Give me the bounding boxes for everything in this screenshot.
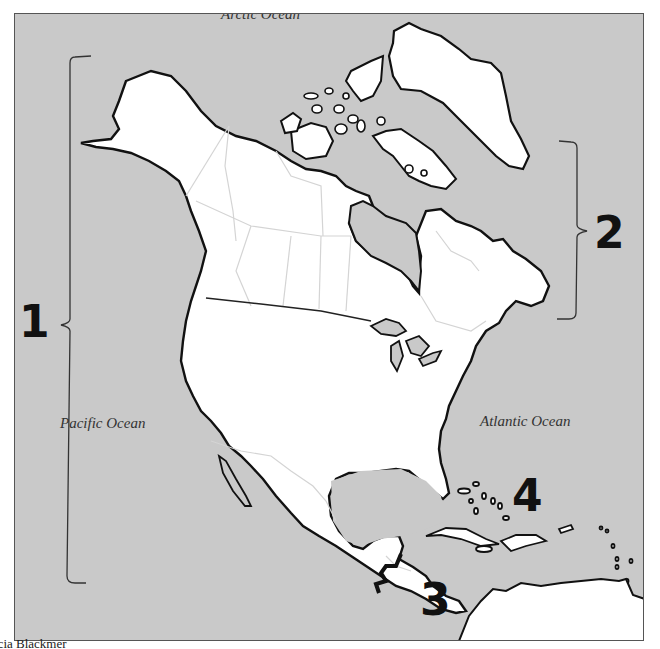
region-label-3: 3 [420, 578, 451, 622]
north-america-map [15, 14, 644, 641]
ellesmere-island [346, 56, 383, 101]
atlantic-ocean-label: Atlantic Ocean [480, 413, 570, 430]
region-label-4: 4 [512, 474, 543, 518]
pacific-ocean-label: Pacific Ocean [60, 415, 145, 432]
south-america [459, 579, 644, 641]
arctic-ocean-label: Arctic Ocean [221, 13, 300, 23]
baffin-island [373, 129, 456, 189]
bracket-2 [557, 141, 587, 319]
gulf-of-california [219, 456, 251, 506]
bracket-1 [61, 56, 91, 583]
author-credit: icia Blackmer [0, 636, 67, 649]
region-label-2: 2 [594, 211, 625, 255]
region-label-1: 1 [19, 300, 50, 344]
map-frame: Arctic Ocean Pacific Ocean Atlantic Ocea… [14, 13, 644, 641]
banks-island [281, 113, 301, 133]
